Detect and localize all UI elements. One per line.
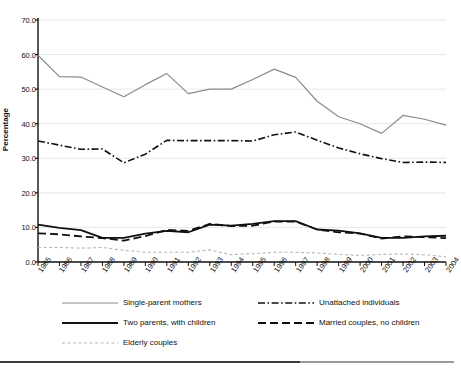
legend-label: Single-parent mothers	[123, 299, 202, 307]
chart-legend: Single-parent mothersUnattached individu…	[0, 296, 454, 354]
legend-swatch-icon	[62, 318, 118, 328]
legend-item[interactable]: Married couples, no children	[258, 318, 420, 328]
legend-swatch-icon	[62, 338, 118, 348]
series-line	[38, 247, 446, 256]
legend-item[interactable]: Elderly couples	[62, 338, 177, 348]
gridlines	[38, 20, 446, 227]
legend-item[interactable]: Single-parent mothers	[62, 298, 202, 308]
series-line	[38, 221, 446, 238]
legend-label: Married couples, no children	[319, 319, 420, 327]
legend-item[interactable]: Unattached individuals	[258, 298, 400, 308]
legend-label: Unattached individuals	[319, 299, 400, 307]
legend-swatch-icon	[62, 298, 118, 308]
legend-label: Elderly couples	[123, 339, 177, 347]
legend-item[interactable]: Two parents, with children	[62, 318, 216, 328]
legend-swatch-icon	[258, 318, 314, 328]
series-line	[38, 55, 446, 133]
footer-rule-secondary	[300, 361, 454, 363]
data-series-group	[38, 55, 446, 257]
legend-label: Two parents, with children	[123, 319, 216, 327]
legend-swatch-icon	[258, 298, 314, 308]
